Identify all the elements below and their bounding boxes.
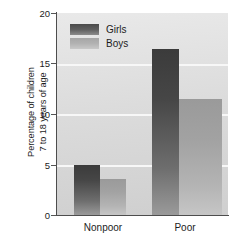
plot-area: Girls Boys [57, 13, 228, 215]
y-axis-line [56, 12, 57, 216]
gridline-15 [57, 64, 228, 66]
y-tick-label-10: 10 [28, 110, 50, 120]
bar-poor-girls [152, 49, 179, 215]
legend-item-boys: Boys [70, 38, 128, 49]
x-tick-label-poor: Poor [150, 222, 220, 233]
x-tick-label-nonpoor: Nonpoor [63, 222, 143, 233]
legend: Girls Boys [70, 24, 128, 52]
y-tick-label-5: 5 [28, 161, 50, 171]
bar-poor-boys [179, 99, 222, 215]
legend-swatch-girls-icon [70, 24, 99, 35]
y-tick-label-15: 15 [28, 59, 50, 69]
legend-label-boys: Boys [106, 38, 128, 49]
legend-swatch-boys-icon [70, 38, 99, 49]
x-axis-line [56, 215, 229, 216]
legend-item-girls: Girls [70, 24, 128, 35]
y-tick-label-20: 20 [28, 9, 50, 19]
bar-chart: Percentage of children 7 to 18 years of … [0, 0, 236, 250]
y-tick-label-0: 0 [28, 211, 50, 221]
bar-nonpoor-girls [74, 165, 100, 216]
y-axis-tick-labels: 20 15 10 5 0 [28, 0, 50, 250]
bar-nonpoor-boys [100, 179, 126, 215]
legend-label-girls: Girls [106, 24, 127, 35]
y-axis-title: Percentage of children 7 to 18 years of … [0, 0, 30, 220]
